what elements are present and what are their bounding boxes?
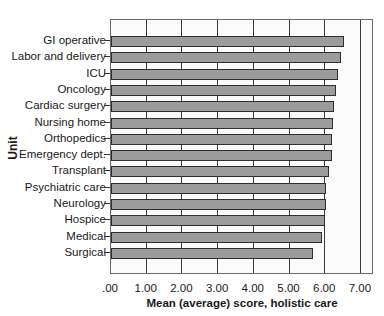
bar (111, 36, 344, 47)
x-tick-label: 7.00 (349, 282, 371, 294)
y-axis-title: Unit (6, 136, 20, 159)
category-label: Cardiac surgery (25, 99, 106, 111)
bar (111, 134, 332, 145)
x-tick-label: .00 (102, 282, 118, 294)
category-label: Labor and delivery (11, 50, 106, 62)
gridline (360, 20, 361, 273)
category-label: Nursing home (34, 116, 106, 128)
bar (111, 166, 329, 177)
bar (111, 52, 341, 63)
x-tick-label: 2.00 (170, 282, 192, 294)
bar-chart: Unit GI operativeLabor and deliveryICUOn… (0, 0, 384, 316)
bar (111, 248, 313, 259)
x-tick-label: 6.00 (313, 282, 335, 294)
category-label: Medical (66, 230, 106, 242)
bar (111, 101, 334, 112)
plot-area (110, 19, 373, 274)
category-label: Transplant (52, 164, 106, 176)
category-label: Orthopedics (44, 132, 106, 144)
category-label: Neurology (54, 197, 106, 209)
category-label: Hospice (64, 213, 106, 225)
x-tick-label: 5.00 (277, 282, 299, 294)
category-label: Emergency dept. (19, 148, 106, 160)
category-label: Oncology (57, 83, 106, 95)
category-label: GI operative (43, 34, 106, 46)
bar (111, 199, 326, 210)
x-tick-label: 1.00 (134, 282, 156, 294)
bar (111, 150, 332, 161)
x-tick-label: 4.00 (242, 282, 264, 294)
bar (111, 232, 322, 243)
category-label: Surgical (64, 246, 106, 258)
x-axis-title: Mean (average) score, holistic care (146, 297, 337, 309)
category-label: Psychiatric care (25, 181, 106, 193)
bar (111, 118, 333, 129)
x-tick-label: 3.00 (206, 282, 228, 294)
bar (111, 85, 336, 96)
bar (111, 183, 326, 194)
bar (111, 69, 338, 80)
bar (111, 215, 325, 226)
